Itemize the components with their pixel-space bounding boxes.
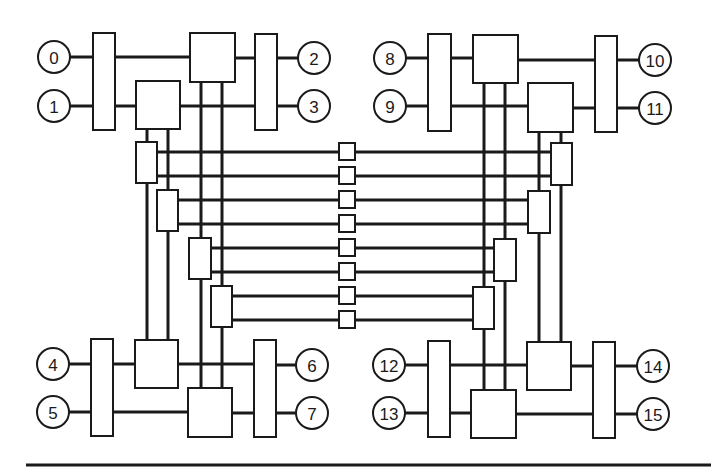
node-5: 5 bbox=[37, 396, 69, 428]
mid-link-4-box bbox=[339, 215, 355, 232]
node-label: 7 bbox=[307, 405, 316, 424]
br-switch-h-box bbox=[471, 390, 516, 438]
mr-stage-2-box bbox=[528, 191, 550, 233]
node-label: 15 bbox=[644, 406, 663, 425]
tr-switch-d-box bbox=[528, 83, 573, 132]
node-label: 13 bbox=[380, 405, 399, 424]
node-label: 0 bbox=[49, 49, 58, 68]
tl-bar-left-box bbox=[93, 33, 115, 130]
mr-stage-4-box bbox=[473, 287, 494, 329]
mid-link-6-box bbox=[339, 263, 355, 280]
bl-bar-left-box bbox=[91, 339, 113, 436]
node-12: 12 bbox=[373, 349, 405, 381]
mid-link-3-box bbox=[339, 191, 355, 208]
node-label: 12 bbox=[380, 357, 399, 376]
br-switch-g-box bbox=[527, 342, 571, 390]
node-label: 2 bbox=[309, 50, 318, 69]
bl-switch-e-box bbox=[135, 340, 178, 388]
tl-switch-a-box bbox=[190, 33, 235, 82]
node-label: 10 bbox=[646, 52, 665, 71]
node-3: 3 bbox=[298, 90, 330, 122]
node-8: 8 bbox=[374, 42, 406, 74]
interconnection-network-diagram: 0123456789101112131415 bbox=[0, 0, 711, 470]
node-label: 5 bbox=[48, 404, 57, 423]
node-label: 3 bbox=[309, 98, 318, 117]
node-label: 9 bbox=[385, 98, 394, 117]
tr-bar-right-box bbox=[595, 36, 617, 132]
node-label: 6 bbox=[307, 357, 316, 376]
node-2: 2 bbox=[298, 42, 330, 74]
tr-switch-c-box bbox=[473, 35, 518, 83]
node-label: 11 bbox=[646, 100, 664, 119]
node-13: 13 bbox=[373, 397, 405, 429]
br-bar-left-box bbox=[428, 341, 450, 437]
node-6: 6 bbox=[296, 349, 328, 381]
node-14: 14 bbox=[637, 350, 669, 382]
bl-bar-right-box bbox=[254, 340, 276, 437]
tl-switch-b-box bbox=[136, 81, 180, 129]
mid-link-2-box bbox=[339, 167, 355, 184]
node-10: 10 bbox=[639, 44, 671, 76]
node-label: 1 bbox=[49, 98, 58, 117]
node-15: 15 bbox=[637, 398, 669, 430]
nodes-layer: 0123456789101112131415 bbox=[37, 41, 671, 430]
ml-stage-4-box bbox=[211, 286, 232, 327]
mid-link-7-box bbox=[339, 287, 355, 304]
mid-link-1-box bbox=[339, 143, 355, 160]
node-label: 4 bbox=[48, 356, 57, 375]
mid-link-8-box bbox=[339, 311, 355, 328]
node-label: 14 bbox=[644, 358, 663, 377]
node-9: 9 bbox=[374, 90, 406, 122]
br-bar-right-box bbox=[593, 342, 615, 438]
node-11: 11 bbox=[639, 92, 671, 124]
node-label: 8 bbox=[385, 50, 394, 69]
ml-stage-3-box bbox=[189, 238, 211, 279]
mr-stage-3-box bbox=[494, 239, 516, 281]
ml-stage-2-box bbox=[157, 190, 178, 231]
mr-stage-1-box bbox=[551, 143, 572, 185]
mid-link-5-box bbox=[339, 239, 355, 256]
node-1: 1 bbox=[38, 90, 70, 122]
node-0: 0 bbox=[38, 41, 70, 73]
node-7: 7 bbox=[296, 397, 328, 429]
bl-switch-f-box bbox=[188, 388, 232, 437]
tr-bar-left-box bbox=[428, 34, 451, 131]
node-4: 4 bbox=[37, 348, 69, 380]
tl-bar-right-box bbox=[255, 34, 277, 130]
ml-stage-1-box bbox=[136, 142, 157, 183]
